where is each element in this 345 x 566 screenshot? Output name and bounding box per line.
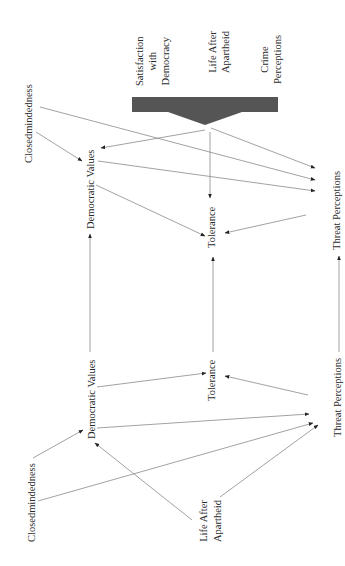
edge-closed-to-demval-top	[36, 132, 82, 161]
label-threat-perceptions-bottom: Threat Perceptions	[332, 358, 344, 437]
edge-threat-to-tolerance-bottom	[225, 376, 308, 395]
label-tolerance-bottom: Tolerance	[206, 360, 218, 401]
edge-demval-to-tolerance-top	[96, 185, 205, 236]
label-tolerance-top: Tolerance	[206, 207, 218, 248]
edge-demval-to-threat-top	[98, 161, 315, 191]
edge-block-to-demval	[101, 130, 205, 148]
label-life-after-apartheid-bottom: Life After Apartheid	[197, 500, 225, 542]
edge-lifeafter-to-demval	[95, 443, 192, 520]
edge-closed-to-threat-top	[40, 107, 315, 180]
label-crime-perceptions: Crime Perceptions	[258, 35, 284, 84]
edge-threat-to-tolerance-top	[225, 215, 306, 233]
label-threat-perceptions-top: Threat Perceptions	[331, 171, 343, 250]
label-democratic-values-bottom: Democratic Values	[86, 360, 98, 439]
diagram-edges	[0, 0, 345, 566]
block-arrow-icon	[132, 97, 278, 125]
label-closedmindedness-bottom: Closedmindedness	[26, 463, 38, 542]
label-satisfaction-with-democracy: Satisfaction with Democracy	[133, 36, 172, 86]
label-democratic-values-top: Democratic Values	[85, 150, 97, 229]
path-diagram: Satisfaction with Democracy Life After A…	[0, 0, 345, 566]
label-life-after-apartheid-top: Life After Apartheid	[206, 31, 232, 73]
edge-closed-to-threat-bottom	[38, 423, 313, 501]
edge-demval-to-tolerance-bottom	[97, 373, 206, 387]
edge-demval-to-threat-bottom	[97, 414, 309, 428]
label-closedmindedness-top: Closedmindedness	[23, 84, 35, 163]
edge-closed-to-demval-bottom	[33, 430, 83, 458]
edge-block-to-threat	[211, 128, 315, 168]
